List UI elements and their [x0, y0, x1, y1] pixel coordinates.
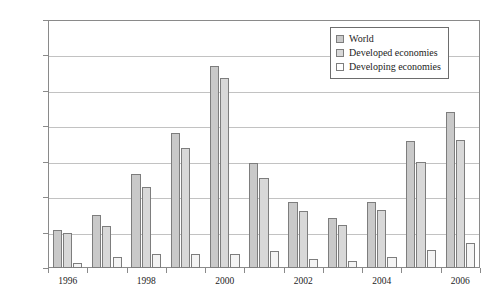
- bar-developed-economies-2001: [259, 178, 268, 268]
- bar-developing-economies-1998: [152, 254, 161, 268]
- bar-developed-economies-1999: [181, 148, 190, 268]
- bar-developing-economies-2003: [348, 261, 357, 268]
- bar-developed-economies-2004: [377, 210, 386, 268]
- x-tick-label: 2000: [195, 276, 255, 286]
- bar-developing-economies-2004: [387, 257, 396, 268]
- x-tick-mark: [166, 268, 167, 273]
- x-tick-label: 2006: [430, 276, 485, 286]
- legend-swatch-icon: [336, 35, 344, 43]
- bar-developed-economies-1996: [63, 233, 72, 268]
- legend-swatch-icon: [336, 49, 344, 57]
- bar-developed-economies-1997: [102, 226, 111, 268]
- x-tick-label: 1996: [38, 276, 98, 286]
- legend-item-developed-economies[interactable]: Developed economies: [336, 46, 441, 60]
- bar-world-1998: [131, 174, 140, 268]
- legend-label: World: [349, 32, 374, 46]
- x-tick-mark: [401, 268, 402, 273]
- bar-world-2001: [249, 163, 258, 268]
- legend-item-developing-economies[interactable]: Developing economies: [336, 60, 441, 74]
- x-tick-label: 1998: [116, 276, 176, 286]
- bar-world-2003: [328, 218, 337, 268]
- x-tick-mark: [87, 268, 88, 273]
- bar-chart: 1,400,0001,200,0001,000,000800,000600,00…: [0, 0, 485, 302]
- x-tick-mark: [362, 268, 363, 273]
- x-tick-label: 2002: [273, 276, 333, 286]
- bar-group: [48, 20, 87, 268]
- bar-developed-economies-2003: [338, 225, 347, 268]
- legend-item-world[interactable]: World: [336, 32, 441, 46]
- legend-label: Developed economies: [349, 46, 438, 60]
- legend-swatch-icon: [336, 63, 344, 71]
- bar-developing-economies-2005: [427, 250, 436, 268]
- bar-developing-economies-1997: [113, 257, 122, 268]
- bar-world-1997: [92, 215, 101, 268]
- bar-developing-economies-2001: [270, 251, 279, 268]
- bar-world-2004: [367, 202, 376, 268]
- bar-developed-economies-2002: [299, 211, 308, 268]
- x-tick-mark: [244, 268, 245, 273]
- bar-world-2002: [288, 202, 297, 268]
- bar-world-2005: [406, 141, 415, 268]
- x-tick-mark: [205, 268, 206, 273]
- x-tick-label: 2004: [352, 276, 412, 286]
- x-tick-mark: [48, 268, 49, 273]
- bar-world-1996: [53, 230, 62, 268]
- bar-group: [205, 20, 244, 268]
- bar-developed-economies-2006: [456, 140, 465, 268]
- x-tick-mark: [323, 268, 324, 273]
- bar-world-2006: [446, 112, 455, 268]
- bar-developing-economies-2006: [466, 243, 475, 268]
- bar-world-1999: [171, 133, 180, 268]
- bar-group: [244, 20, 283, 268]
- bar-developing-economies-1999: [191, 254, 200, 268]
- bar-developed-economies-2005: [416, 162, 425, 268]
- bar-developing-economies-2002: [309, 259, 318, 268]
- x-tick-mark: [441, 268, 442, 273]
- bar-developing-economies-1996: [73, 263, 82, 268]
- bar-group: [284, 20, 323, 268]
- bar-group: [87, 20, 126, 268]
- x-tick-mark: [480, 268, 481, 273]
- x-tick-mark: [127, 268, 128, 273]
- legend-label: Developing economies: [349, 60, 441, 74]
- bar-group: [127, 20, 166, 268]
- chart-legend: WorldDeveloped economiesDeveloping econo…: [330, 27, 449, 79]
- x-tick-mark: [284, 268, 285, 273]
- bar-group: [166, 20, 205, 268]
- bar-world-2000: [210, 66, 219, 268]
- bar-developing-economies-2000: [230, 254, 239, 268]
- bar-developed-economies-1998: [142, 187, 151, 268]
- bar-developed-economies-2000: [220, 78, 229, 268]
